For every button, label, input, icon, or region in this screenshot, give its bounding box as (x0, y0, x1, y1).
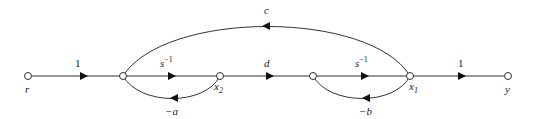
arrow-c-icon (262, 22, 270, 30)
gain-r-n1: 1 (75, 57, 81, 69)
label-node-x2: x2 (213, 80, 223, 95)
node-x2 (217, 73, 224, 80)
arrow-r-n1-icon (80, 72, 88, 80)
gain-d: d (264, 57, 270, 69)
arrow-n3-x1-icon (361, 72, 369, 80)
node-y (505, 73, 512, 80)
gain-neg-a: −a (165, 105, 178, 117)
gain-x1-y: 1 (458, 57, 464, 69)
gain-n3-x1: s−1 (355, 55, 368, 69)
node-n3 (310, 73, 317, 80)
label-node-r: r (25, 83, 30, 95)
label-node-x1: x1 (408, 80, 418, 95)
label-node-y: y (504, 83, 510, 95)
node-x1 (407, 73, 414, 80)
node-n1 (120, 73, 127, 80)
edge-neg-a-arc (123, 76, 220, 99)
arrow-x2-n3-icon (266, 72, 274, 80)
signal-flow-graph: r x2 x1 y 1 s−1 −a d s−1 −b c 1 (0, 0, 535, 119)
gain-n1-x2: s−1 (160, 55, 173, 69)
node-r (25, 73, 32, 80)
arrow-neg-b-icon (362, 94, 370, 102)
arrow-n1-x2-icon (168, 72, 176, 80)
gain-neg-b: −b (359, 105, 372, 117)
gain-c: c (264, 4, 269, 16)
arrow-neg-a-icon (170, 94, 178, 102)
arrow-x1-y-icon (458, 72, 466, 80)
